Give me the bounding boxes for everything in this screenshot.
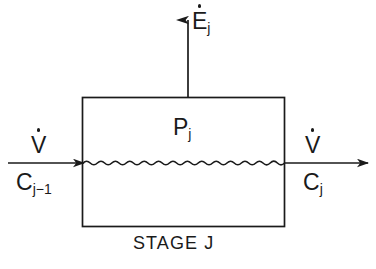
overdot-icon bbox=[198, 4, 202, 8]
overdot-icon bbox=[37, 128, 41, 132]
inlet-conc-symbol-base: C bbox=[16, 169, 33, 195]
stage-j-process-diagram: E j Pj V Cj−1 V Cj STAGE J bbox=[0, 0, 376, 269]
production-symbol-subscript: j bbox=[188, 126, 191, 142]
inlet-flow-label: V bbox=[31, 134, 46, 157]
production-label: Pj bbox=[173, 116, 191, 141]
energy-symbol-subscript: j bbox=[207, 20, 210, 36]
stage-caption: STAGE J bbox=[133, 234, 214, 252]
outlet-conc-symbol-subscript: j bbox=[320, 181, 323, 197]
inlet-flow-symbol-base: V bbox=[31, 134, 46, 157]
mixing-wavy-line bbox=[83, 161, 285, 165]
outlet-flow-label: V bbox=[305, 134, 320, 157]
energy-out-label: E j bbox=[192, 10, 210, 35]
overdot-icon bbox=[311, 128, 315, 132]
outlet-flow-symbol-base: V bbox=[305, 134, 320, 157]
inlet-flow-symbol: V bbox=[31, 134, 46, 157]
outlet-conc-symbol-base: C bbox=[303, 169, 320, 195]
outlet-flow-symbol: V bbox=[305, 134, 320, 157]
outlet-concentration-label: Cj bbox=[303, 171, 323, 196]
production-symbol-base: P bbox=[173, 114, 188, 140]
inlet-conc-symbol-subscript: j−1 bbox=[33, 181, 52, 197]
energy-symbol-base: E bbox=[192, 10, 207, 33]
inlet-concentration-label: Cj−1 bbox=[16, 171, 52, 196]
energy-symbol: E bbox=[192, 10, 207, 33]
